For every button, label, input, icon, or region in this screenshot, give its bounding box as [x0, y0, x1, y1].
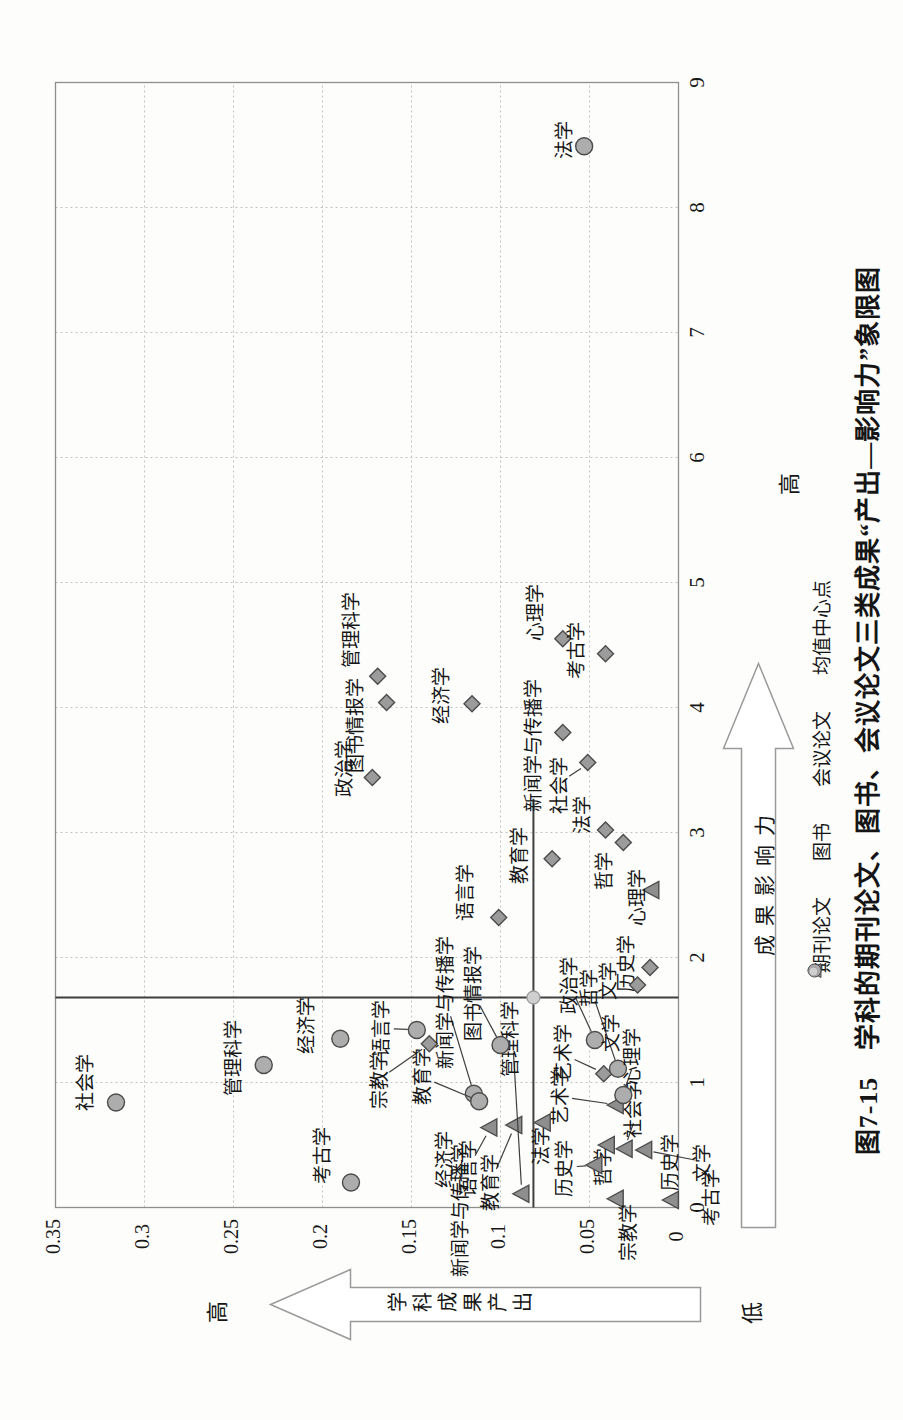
point-label: 心理学 [621, 1027, 642, 1084]
y-tick-label: 0.15 [398, 1219, 420, 1254]
y-tick-label: 0.2 [309, 1224, 331, 1249]
marker-circle-conference [107, 1094, 124, 1111]
legend-label: 会议论文 [806, 710, 833, 786]
point-label: 图书情报学 [462, 945, 483, 1040]
marker-diamond-journal [579, 754, 595, 770]
marker-diamond-journal [364, 769, 380, 785]
label-connector [569, 768, 581, 776]
point-label: 考古学 [700, 1168, 721, 1225]
point-label: 政治学 [333, 740, 354, 797]
point-label: 教育学 [480, 1153, 501, 1210]
point-label: 教育学 [412, 1047, 433, 1104]
label-connector [576, 1165, 585, 1166]
point-label: 法学 [553, 121, 574, 159]
point-label: 政治学 [559, 956, 580, 1013]
legend-item-book: 图书 [806, 822, 833, 866]
x-tick-label: 4 [685, 701, 709, 712]
point-label: 哲学 [593, 851, 614, 889]
legend-label: 均值中心点 [806, 579, 833, 674]
point-label: 管理科学 [341, 592, 362, 668]
extra-point-label: 文学 [600, 1013, 621, 1051]
y-axis-high-label: 高 [198, 1300, 230, 1322]
point-label: 语言学 [455, 864, 476, 921]
point-label: 法学 [530, 1126, 551, 1164]
y-tick-label: 0.3 [131, 1224, 153, 1249]
marker-circle-conference [614, 1086, 631, 1103]
marker-diamond-journal [544, 850, 560, 866]
scanned-book-page: 012345678900.050.10.150.20.250.30.35管理科学… [0, 0, 903, 1420]
point-label: 社会学 [75, 1054, 96, 1111]
x-tick-label: 8 [685, 202, 709, 213]
marker-circle-conference [255, 1056, 272, 1073]
marker-circle-conference [575, 137, 592, 154]
point-label: 文学 [597, 962, 618, 1000]
point-label: 考古学 [312, 1127, 333, 1184]
marker-circle-conference [408, 1021, 425, 1038]
marker-diamond-journal [642, 959, 658, 975]
x-tick-label: 9 [685, 77, 709, 88]
figure-caption: 图7-15 学科的期刊论文、图书、会议论文三类成果“产出—影响力”象限图 [846, 0, 883, 1420]
quadrant-chart: 012345678900.050.10.150.20.250.30.35管理科学… [0, 0, 903, 1420]
x-tick-label: 6 [685, 452, 709, 463]
x-tick-label: 7 [685, 327, 709, 338]
label-connector [434, 1082, 471, 1097]
y-axis-low-label: 低 [733, 1301, 765, 1323]
y-tick-label: 0.1 [487, 1224, 509, 1249]
x-tick-label: 5 [685, 577, 709, 588]
marker-circle-conference [331, 1030, 348, 1047]
scatter-plot-canvas: 012345678900.050.10.150.20.250.30.35管理科学… [0, 0, 903, 1420]
y-axis-label: 学科成果产出 [386, 1288, 536, 1317]
x-tick-label: 2 [685, 952, 709, 963]
marker-circle-conference [492, 1036, 509, 1053]
marker-diamond-journal [595, 1065, 611, 1081]
point-label: 哲学 [579, 968, 600, 1006]
marker-circle-conference [470, 1092, 487, 1109]
y-tick-label: 0.35 [42, 1219, 64, 1254]
point-label: 宗教学 [617, 1204, 638, 1261]
x-tick-label: 1 [685, 1077, 709, 1088]
point-label: 语言学 [371, 999, 392, 1056]
point-label: 法学 [571, 796, 592, 834]
x-axis-label: 成果影响力 [747, 770, 777, 990]
marker-diamond-journal [597, 822, 613, 838]
point-label: 经济学 [295, 997, 316, 1054]
x-axis-high-label: 高 [770, 472, 802, 494]
label-connector [574, 1059, 595, 1069]
extra-point-label: 历史学 [659, 1134, 680, 1191]
marker-diamond-journal [615, 834, 631, 850]
y-tick-label: 0.05 [576, 1219, 598, 1254]
legend: 期刊论文 图书 会议论文 均值中心点 [806, 579, 833, 978]
marker-circle-conference [342, 1174, 359, 1191]
point-label: 教育学 [509, 827, 530, 884]
point-label: 心理学 [627, 868, 648, 925]
point-label: 宗教学 [368, 1052, 389, 1109]
marker-diamond-journal [490, 909, 506, 925]
marker-diamond-journal [464, 695, 480, 711]
point-label: 社会学 [549, 757, 570, 814]
point-label: 经济学 [431, 667, 452, 724]
marker-diamond-journal [369, 668, 385, 684]
marker-triangle-book [662, 1191, 678, 1208]
marker-diamond-journal [554, 724, 570, 740]
legend-item-mean-center: 均值中心点 [806, 579, 833, 680]
y-tick-label: 0 [665, 1231, 687, 1241]
marker-triangle-book [616, 1140, 632, 1157]
point-label: 考古学 [565, 622, 586, 679]
point-label: 管理科学 [223, 1020, 244, 1096]
mean-center-dot [526, 991, 539, 1004]
point-label: 新闻学与传播学 [435, 936, 456, 1069]
x-tick-label: 3 [685, 827, 709, 838]
point-label: 历史学 [554, 1139, 575, 1196]
legend-label: 期刊论文 [806, 896, 833, 972]
marker-triangle-book [512, 1185, 528, 1202]
point-label: 新闻学与传播学 [523, 679, 544, 812]
marker-diamond-journal [597, 645, 613, 661]
marker-triangle-book [635, 1141, 651, 1158]
legend-label: 图书 [806, 822, 833, 860]
point-label: 心理学 [525, 584, 546, 641]
point-label: 艺术学 [549, 1067, 570, 1124]
y-tick-label: 0.25 [220, 1219, 242, 1254]
label-connector [393, 1028, 407, 1029]
extra-point-label: 经济学 [433, 1131, 454, 1188]
marker-triangle-book [505, 1116, 521, 1133]
